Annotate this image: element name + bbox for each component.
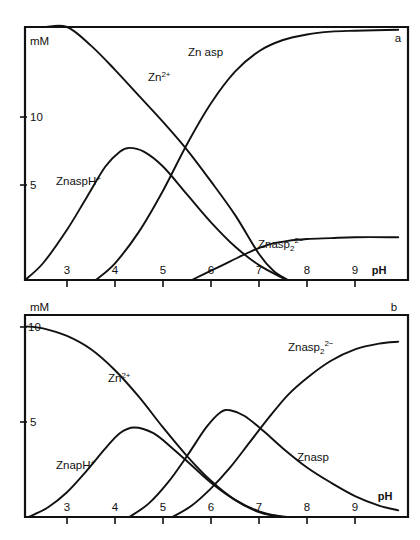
panel-b-y-axis-title: mM [30,301,49,313]
panel-b-id: b [391,301,397,313]
figure-container: 10 5 mM 3 4 5 6 7 8 9 pH a Zn2 [0,0,420,540]
label-znasp-a: Zn asp [188,46,223,58]
panel-a-xtick-9: 9 [352,264,358,276]
panel-b-xtick-3: 3 [64,501,70,513]
panel-b-ytick-5: 5 [30,416,36,428]
panel-b-plot: 10 5 mM 3 4 5 6 7 8 9 pH b Zn2+ ZnapH+ Z… [0,289,420,540]
panel-b-xtick-4: 4 [112,501,119,513]
panel-b-x-axis-title: pH [378,490,393,502]
panel-b-xtick-8: 8 [304,501,310,513]
panel-b-curves [25,326,398,517]
panel-a-curves [25,26,398,280]
curve-znasp2-b [173,342,399,517]
panel-a-xtick-5: 5 [160,264,166,276]
panel-a-frame [25,27,408,280]
label-znasph-a: ZnaspH+ [56,174,101,187]
panel-a-ytick-10: 10 [30,111,43,123]
panel-a: 10 5 mM 3 4 5 6 7 8 9 pH a Zn2 [0,0,420,290]
label-znasph-b: ZnapH+ [56,458,96,471]
panel-b-xtick-6: 6 [208,501,214,513]
label-znasp2-b: Znasp22− [288,339,334,356]
panel-b: 10 5 mM 3 4 5 6 7 8 9 pH b Zn2+ ZnapH+ Z… [0,289,420,540]
label-znasp-b: Znasp [297,451,329,463]
label-zn2plus-b: Zn2+ [108,371,131,384]
panel-a-ytick-5: 5 [30,179,36,191]
panel-a-y-axis-title: mM [30,35,49,47]
label-zn2plus-a: Zn2+ [148,70,171,83]
panel-a-xtick-3: 3 [64,264,70,276]
panel-a-x-axis-title: pH [372,264,387,276]
panel-a-xtick-8: 8 [304,264,310,276]
curve-znasph-a [25,148,283,280]
panel-a-plot: 10 5 mM 3 4 5 6 7 8 9 pH a Zn2 [0,0,420,290]
panel-b-xtick-5: 5 [160,501,166,513]
panel-a-id: a [395,32,402,44]
curve-znasp-a [96,30,398,280]
curve-zn2plus-b [25,326,288,517]
curve-zn2plus-a [25,26,288,280]
panel-b-xtick-9: 9 [352,501,358,513]
label-znasp2-a: Znasp22− [258,236,304,253]
